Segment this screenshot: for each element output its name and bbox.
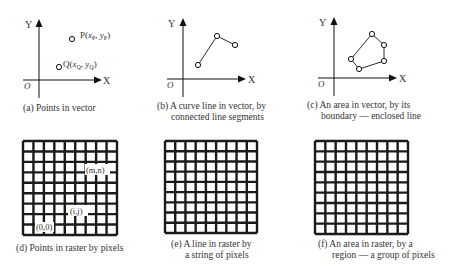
caption-f: (f) An area in raster, by a region — a g… (318, 239, 435, 261)
caption-d: (d) Points in raster by pixels (16, 243, 123, 254)
point-p-label: P(xP, yP) (80, 30, 110, 41)
vertex (195, 62, 200, 67)
vertex (214, 33, 219, 38)
pixel-label-i-j: (i,j) (70, 206, 83, 216)
x-axis-label: X (248, 74, 256, 85)
point-q (56, 64, 61, 69)
vertex (369, 31, 374, 36)
y-axis-label: Y (319, 17, 326, 28)
panel-f-raster-grid (315, 141, 408, 234)
x-axis-label: X (103, 75, 111, 86)
x-axis-label: X (399, 73, 407, 84)
panel-e-raster-grid (165, 141, 257, 233)
origin-label: O (24, 81, 31, 91)
caption-b: (b) A curve line in vector, by connected… (157, 101, 266, 123)
origin-label: O (167, 80, 174, 90)
y-axis-label: Y (168, 18, 175, 29)
vertex (356, 66, 361, 71)
vertex (381, 42, 386, 47)
pixel-label-m-n: (m,n) (86, 165, 105, 175)
panel-c-area-in-vector: Y X O (318, 17, 407, 96)
vertex (348, 56, 353, 61)
caption-c: (c) An area in vector, by its boundary —… (307, 100, 421, 122)
panel-a-points-in-vector: Y X O P(xP, yP) Q(xQ, yQ) (23, 19, 111, 98)
point-p (69, 36, 74, 41)
vector-polygon (351, 34, 384, 69)
panel-d-raster-grid (23, 141, 117, 235)
origin-label: O (318, 79, 325, 89)
caption-e: (e) A line in raster by a string of pixe… (171, 239, 251, 261)
caption-a: (a) Points in vector (23, 103, 96, 114)
y-axis-label: Y (25, 19, 32, 30)
pixel-label-origin: (0,0) (36, 222, 52, 232)
vector-raster-figure: Y X O P(xP, yP) Q(xQ, yQ) Y X O Y X O (0, 0, 449, 271)
vector-polyline (198, 36, 235, 65)
panel-d-labels: (m,n) (i,j) (0,0) (35, 164, 110, 232)
vertex (232, 42, 237, 47)
vertex (381, 58, 386, 63)
point-q-label: Q(xQ, yQ) (63, 59, 97, 70)
panel-b-line-in-vector: Y X O (167, 18, 256, 97)
